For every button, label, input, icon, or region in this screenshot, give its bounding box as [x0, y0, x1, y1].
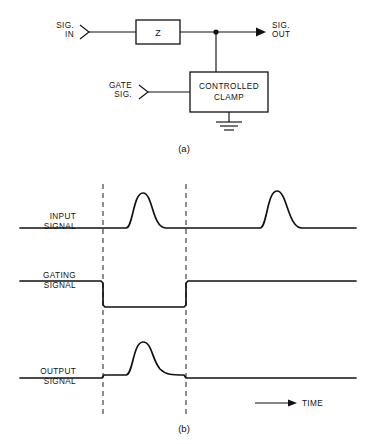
sig-in-label-line2: IN — [65, 30, 74, 39]
gate-input-arrowhead — [139, 85, 148, 99]
impedance-block-label: Z — [155, 28, 161, 38]
gate-sig-label-line1: GATE — [109, 81, 132, 90]
signal-input-arrowhead — [80, 25, 89, 39]
controlled-clamp-label-line1: CONTROLLED — [199, 82, 259, 91]
time-arrow-icon — [255, 399, 297, 406]
gating-signal-label-line1: GATING — [43, 271, 76, 280]
ground-icon — [216, 122, 242, 130]
input-signal-label-line2: SIGNAL — [44, 222, 76, 231]
signal-output-arrowhead — [256, 28, 266, 37]
controlled-clamp-block — [190, 72, 268, 112]
output-signal-label-line1: OUTPUT — [40, 367, 76, 376]
time-axis-label: TIME — [302, 399, 323, 408]
sig-in-label-line1: SIG. — [56, 21, 74, 30]
gate-sig-label-line2: SIG. — [114, 90, 132, 99]
panel-b-waveforms: INPUT SIGNAL GATING SIGNAL OUTPUT SIGNAL… — [20, 184, 356, 434]
controlled-clamp-label-line2: CLAMP — [214, 93, 244, 102]
sig-out-label-line1: SIG. — [272, 21, 290, 30]
panel-a-block-diagram: SIG. IN Z SIG. OUT GATE SIG. — [56, 20, 290, 154]
gating-signal-label-line2: SIGNAL — [44, 281, 76, 290]
figure-container: SIG. IN Z SIG. OUT GATE SIG. — [0, 0, 376, 444]
sig-out-label-line2: OUT — [272, 30, 290, 39]
panel-b-caption: (b) — [178, 423, 190, 434]
panel-a-caption: (a) — [178, 143, 190, 154]
block-diagram-and-waveforms: SIG. IN Z SIG. OUT GATE SIG. — [0, 0, 376, 444]
input-signal-label-line1: INPUT — [50, 212, 76, 221]
